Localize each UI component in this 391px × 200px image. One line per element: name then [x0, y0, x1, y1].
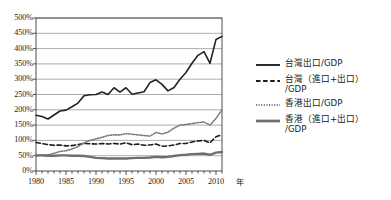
x-tick-label: 2005 — [178, 178, 194, 186]
legend-label-line1: 台灣（進口+出口） — [285, 74, 364, 84]
legend-line-swatch-icon — [255, 115, 281, 126]
x-tick-label: 1985 — [58, 178, 74, 186]
legend-label: 香港（進口+出口）/GDP — [285, 114, 364, 135]
legend-line-swatch-icon — [255, 99, 281, 110]
x-tick-label: 2010 — [208, 178, 224, 186]
legend-label-line2: /GDP — [285, 124, 364, 135]
legend-item: 香港（進口+出口）/GDP — [255, 114, 391, 135]
x-axis-unit-label: 年 — [236, 178, 244, 186]
x-tick-label: 1990 — [88, 178, 104, 186]
legend-label: 台灣（進口+出口）/GDP — [285, 74, 364, 95]
legend-item: 香港出口/GDP — [255, 98, 391, 110]
legend-item: 台灣（進口+出口）/GDP — [255, 74, 391, 95]
x-tick-label: 2000 — [148, 178, 164, 186]
chart-legend: 台灣出口/GDP台灣（進口+出口）/GDP香港出口/GDP香港（進口+出口）/G… — [255, 58, 391, 138]
x-tick-label: 1995 — [118, 178, 134, 186]
legend-label-line2: /GDP — [285, 84, 364, 95]
legend-line-swatch-icon — [255, 75, 281, 86]
legend-line-swatch-icon — [255, 59, 281, 70]
legend-label-line1: 香港出口/GDP — [285, 98, 342, 108]
chart-figure: 0%50%100%150%200%250%300%350%400%450%500… — [0, 0, 391, 200]
legend-label-line1: 台灣出口/GDP — [285, 58, 342, 68]
legend-item: 台灣出口/GDP — [255, 58, 391, 70]
x-tick-label: 1980 — [28, 178, 44, 186]
legend-label: 香港出口/GDP — [285, 98, 342, 109]
legend-label: 台灣出口/GDP — [285, 58, 342, 69]
legend-label-line1: 香港（進口+出口） — [285, 114, 364, 124]
